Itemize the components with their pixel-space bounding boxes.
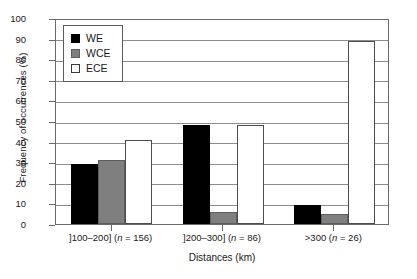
legend-swatch-we: [71, 34, 80, 43]
legend-item: WCE: [71, 46, 111, 61]
y-axis-tick-label: 70: [0, 76, 26, 86]
y-axis-tick-label: 40: [0, 138, 26, 148]
legend-swatch-wce: [71, 49, 80, 58]
y-axis-tick-label: 80: [0, 55, 26, 65]
x-axis-tick-mark: [222, 225, 223, 231]
bar-ece: [237, 125, 264, 224]
x-axis-tick-label: >300 (n = 26): [305, 232, 362, 243]
bar-we: [71, 164, 98, 224]
y-axis-tick-label: 20: [0, 179, 26, 189]
y-axis-tick-label: 100: [0, 14, 26, 24]
x-axis-tick-label: ]200–300] (n = 86): [183, 232, 261, 243]
y-axis-tick-label: 0: [0, 220, 26, 230]
bar-wce: [210, 212, 237, 224]
bar-wce: [98, 160, 125, 224]
bar-we: [294, 205, 321, 224]
legend-label: ECE: [86, 63, 108, 74]
legend-swatch-ece: [71, 64, 80, 73]
bar-ece: [125, 140, 152, 224]
x-axis-tick-mark: [111, 225, 112, 231]
bar-ece: [348, 41, 375, 224]
bar-chart-figure: Frequency of occurrences (%) 01020304050…: [0, 0, 417, 279]
legend-label: WCE: [86, 48, 111, 59]
y-axis-tick-label: 90: [0, 35, 26, 45]
legend-item: WE: [71, 31, 111, 46]
bar-group: [183, 20, 264, 224]
bar-we: [183, 125, 210, 224]
x-axis-title: Distances (km): [55, 252, 389, 263]
chart-legend: WEWCEECE: [63, 25, 123, 82]
x-axis-tick-label: ]100–200] (n = 156): [69, 232, 152, 243]
y-axis-tick-mark: [49, 225, 55, 226]
bar-wce: [321, 214, 348, 224]
y-axis-tick-label: 60: [0, 97, 26, 107]
y-axis-tick-label: 30: [0, 158, 26, 168]
y-axis-tick-label: 50: [0, 117, 26, 127]
y-axis-tick-label: 10: [0, 200, 26, 210]
bar-group: [294, 20, 375, 224]
legend-label: WE: [86, 33, 103, 44]
x-axis-tick-mark: [333, 225, 334, 231]
legend-item: ECE: [71, 61, 111, 76]
